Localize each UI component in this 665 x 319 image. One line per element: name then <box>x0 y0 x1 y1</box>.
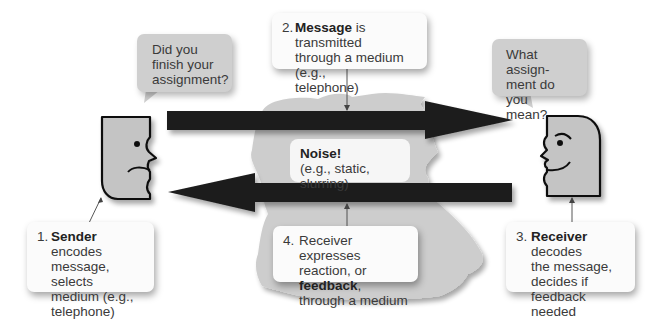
callout-text: reaction, or <box>299 263 367 278</box>
callout-text: , <box>358 278 362 293</box>
callout-keyword: Receiver <box>531 229 587 244</box>
callout-line: medium (e.g., <box>51 289 144 304</box>
callout-keyword: Message <box>295 20 352 35</box>
callout-line: needed <box>531 304 625 319</box>
callout-number: 2. <box>282 20 293 35</box>
noise-box: Noise! (e.g., static, slurring) <box>290 139 410 182</box>
callout-receiver: 3. Receiver decodes the message, decides… <box>506 222 635 292</box>
callout-sender: 1. Sender encodes message, selects mediu… <box>27 222 154 292</box>
callout-line: message, selects <box>51 259 144 289</box>
callout-feedback: 4. Receiver expresses reaction, or feedb… <box>273 226 418 282</box>
callout-line: through a medium (e.g., <box>295 50 417 80</box>
callout-keyword: Sender <box>51 229 97 244</box>
callout-first-line: Message is transmitted <box>295 20 417 50</box>
callout-second-line: reaction, or feedback, <box>299 263 408 293</box>
callout-keyword: feedback <box>299 278 358 293</box>
noise-subtitle: (e.g., static, slurring) <box>300 161 400 191</box>
pointer-receiver <box>569 197 575 222</box>
sender-bubble-line-2: finish your <box>152 57 222 72</box>
receiver-bubble-line-1: What assign- <box>506 47 577 77</box>
callout-line: through a medium <box>299 293 408 308</box>
receiver-speech-bubble: What assign- ment do you mean? <box>492 39 587 96</box>
callout-line: telephone) <box>51 304 144 319</box>
callout-text: decodes <box>531 244 582 259</box>
sender-bubble-line-3: assignment? <box>152 72 222 87</box>
receiver-bubble-line-2: ment do you <box>506 77 577 107</box>
callout-number: 3. <box>516 229 527 244</box>
callout-line: Receiver expresses <box>299 233 408 263</box>
callout-line: the message, <box>531 259 625 274</box>
pointer-sender <box>89 197 103 223</box>
sender-bubble-line-1: Did you <box>152 42 222 57</box>
callout-first-line: Receiver decodes <box>531 229 625 259</box>
callout-number: 1. <box>37 229 48 244</box>
receiver-bubble-line-3: mean? <box>506 107 577 122</box>
sender-face-icon <box>102 117 156 199</box>
callout-line: telephone) <box>295 80 417 95</box>
callout-line: decides if feedback <box>531 274 625 304</box>
callout-number: 4. <box>283 233 294 248</box>
callout-message: 2. Message is transmitted through a medi… <box>272 13 427 69</box>
noise-title: Noise! <box>300 146 400 161</box>
noise-title-text: Noise! <box>300 146 341 161</box>
receiver-face-icon <box>541 116 600 196</box>
callout-text: encodes <box>51 244 102 259</box>
sender-speech-bubble: Did you finish your assignment? <box>137 34 232 92</box>
callout-first-line: Sender encodes <box>51 229 144 259</box>
